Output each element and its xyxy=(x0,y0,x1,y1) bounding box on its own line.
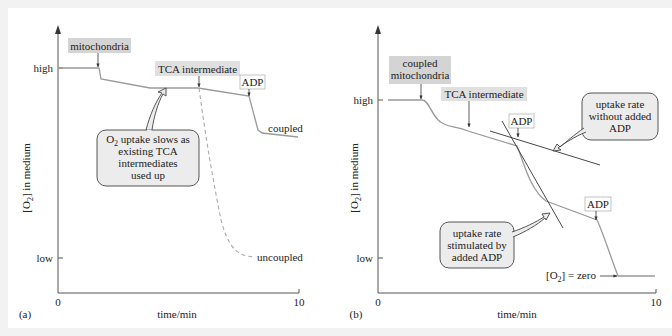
mitochondria-label: mitochondria xyxy=(70,40,129,52)
y-axis-label: [O2] in medium xyxy=(348,143,363,213)
svg-text:without added: without added xyxy=(589,110,652,122)
x-axis-label: time/min xyxy=(497,308,537,320)
tangent-with-adp xyxy=(502,121,563,228)
y-axis-arrow-icon xyxy=(375,25,381,34)
coupled-label: coupled xyxy=(268,122,303,134)
y-tick-high: high xyxy=(33,62,53,74)
y-tick-high: high xyxy=(353,94,373,106)
svg-text:intermediates: intermediates xyxy=(118,157,177,169)
svg-text:uptake rate: uptake rate xyxy=(596,98,645,110)
svg-text:existing TCA: existing TCA xyxy=(118,145,177,157)
svg-text:mitochondria: mitochondria xyxy=(391,69,450,81)
x-tick-10: 10 xyxy=(294,296,306,308)
svg-text:uptake rate: uptake rate xyxy=(453,227,502,239)
y-axis-arrow-icon xyxy=(55,25,61,34)
y-axis-label: [O2] in medium xyxy=(20,143,35,213)
panel-b: high low 0 10 time/min (b) [O2] in mediu… xyxy=(348,25,662,321)
panel-a: high low 0 10 time/min (a) [O2] in mediu… xyxy=(19,25,305,321)
tca-label: TCA intermediate xyxy=(158,63,237,75)
x-axis-label: time/min xyxy=(157,308,197,320)
y-tick-low: low xyxy=(37,252,54,264)
svg-text:added ADP: added ADP xyxy=(452,251,502,263)
panel-label-a: (a) xyxy=(19,308,32,321)
y-tick-low: low xyxy=(357,252,374,264)
uncoupled-curve xyxy=(199,88,254,257)
callout-uptake-without-adp: uptake rate without added ADP xyxy=(553,93,658,151)
tca-label: TCA intermediate xyxy=(444,88,523,100)
adp-label: ADP xyxy=(241,76,263,88)
uncoupled-label: uncoupled xyxy=(257,251,303,263)
adp-label-2: ADP xyxy=(587,198,609,210)
oxygen-uptake-diagram: high low 0 10 time/min (a) [O2] in mediu… xyxy=(8,8,672,328)
svg-text:used up: used up xyxy=(131,169,165,181)
svg-text:stimulated by: stimulated by xyxy=(447,239,507,251)
coupled-mitochondria-label: coupled xyxy=(403,57,438,69)
figure-canvas: high low 0 10 time/min (a) [O2] in mediu… xyxy=(8,8,672,328)
callout-uptake-with-adp: uptake rate stimulated by added ADP xyxy=(440,213,550,268)
o2-zero-label: [O2] = zero xyxy=(546,269,596,284)
svg-text:ADP: ADP xyxy=(609,122,631,134)
adp-label-1: ADP xyxy=(510,115,532,127)
callout-o2-uptake-slows: O2 uptake slows as existing TCA intermed… xyxy=(97,88,199,186)
x-tick-0: 0 xyxy=(375,296,381,308)
x-tick-0: 0 xyxy=(55,296,61,308)
panel-label-b: (b) xyxy=(350,308,363,321)
x-tick-10: 10 xyxy=(651,296,663,308)
